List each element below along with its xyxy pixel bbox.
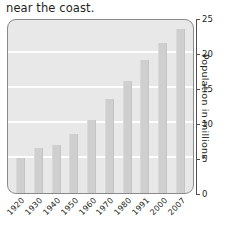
bar-1940[interactable] [52, 145, 61, 193]
x-tick-label-1930: 1930 [23, 196, 44, 217]
x-tick-label-1980: 1980 [113, 196, 134, 217]
bar-1960[interactable] [87, 120, 96, 193]
bar-slot [101, 20, 119, 193]
bar-1970[interactable] [105, 99, 114, 193]
y-tick-0 [196, 194, 200, 195]
x-tick-label-1920: 1920 [5, 196, 26, 217]
x-axis: 1920193019401950196019701980199120002007 [7, 196, 194, 227]
bars-layer [8, 20, 193, 193]
bar-slot [47, 20, 65, 193]
bar-slot [83, 20, 101, 193]
bar-slot [171, 20, 189, 193]
bar-slot [136, 20, 154, 193]
bar-2000[interactable] [158, 43, 167, 194]
bar-1920[interactable] [16, 158, 25, 193]
bar-1930[interactable] [34, 148, 43, 193]
x-tick-label-2007: 2007 [166, 196, 187, 217]
y-axis-title: Population in millions [195, 19, 211, 194]
plot-area [8, 20, 193, 193]
bar-slot [65, 20, 83, 193]
bar-1950[interactable] [69, 134, 78, 194]
bar-1991[interactable] [140, 60, 149, 193]
bar-slot [154, 20, 172, 193]
x-tick-label-1950: 1950 [59, 196, 80, 217]
population-bar-chart: 0510152025 Population in millions 192019… [0, 0, 231, 227]
x-tick-label-1991: 1991 [131, 196, 152, 217]
x-tick-label-1940: 1940 [41, 196, 62, 217]
plot-panel [7, 19, 194, 194]
bar-slot [30, 20, 48, 193]
x-tick-label-2000: 2000 [148, 196, 169, 217]
x-tick-label-1970: 1970 [95, 196, 116, 217]
x-tick-label-1960: 1960 [77, 196, 98, 217]
bar-1980[interactable] [123, 81, 132, 193]
bar-2007[interactable] [176, 29, 185, 194]
bar-slot [118, 20, 136, 193]
bar-slot [12, 20, 30, 193]
